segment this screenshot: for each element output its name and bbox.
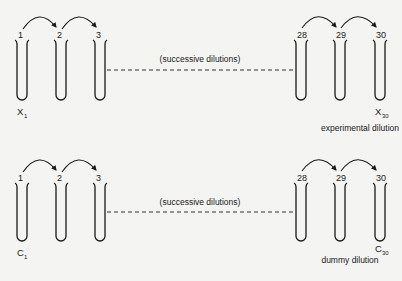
transfer-arrow-2-3 bbox=[62, 160, 96, 172]
last-sample-label: X 30 bbox=[375, 106, 389, 119]
svg-text:X: X bbox=[17, 106, 24, 117]
row-caption: dummy dilution bbox=[321, 255, 378, 265]
transfer-arrow-28-29 bbox=[302, 17, 336, 28]
tube-29: 29 bbox=[333, 173, 347, 241]
tube-30: 30 bbox=[373, 30, 387, 100]
tube-number: 29 bbox=[336, 173, 346, 183]
tube-29: 29 bbox=[333, 30, 347, 100]
first-sample-label: X 1 bbox=[17, 106, 28, 119]
transfer-arrow-1-2 bbox=[23, 160, 56, 172]
tube-number: 2 bbox=[57, 30, 62, 40]
tube-3: 3 bbox=[93, 30, 107, 100]
successive-dilutions-note: (successive dilutions) bbox=[160, 197, 241, 207]
tube-2: 2 bbox=[54, 173, 68, 241]
transfer-arrow-29-30 bbox=[341, 160, 376, 171]
svg-text:X: X bbox=[375, 106, 382, 117]
dummy-dilution-row: 1 2 3 28 29 30 (successive dilutions) bbox=[15, 160, 389, 265]
tube-2: 2 bbox=[54, 30, 68, 100]
svg-text:1: 1 bbox=[24, 254, 28, 260]
svg-text:C: C bbox=[375, 243, 382, 254]
tube-1: 1 bbox=[15, 30, 29, 100]
tube-number: 28 bbox=[297, 30, 307, 40]
tube-number: 29 bbox=[336, 30, 346, 40]
transfer-arrow-1-2 bbox=[23, 17, 56, 29]
tube-30: 30 bbox=[373, 173, 387, 241]
svg-text:1: 1 bbox=[24, 113, 28, 119]
tube-3: 3 bbox=[93, 173, 107, 241]
transfer-arrow-2-3 bbox=[62, 17, 96, 29]
svg-text:C: C bbox=[17, 247, 24, 258]
tube-number: 28 bbox=[297, 173, 307, 183]
tube-number: 3 bbox=[96, 30, 101, 40]
experimental-dilution-row: 1 2 3 28 29 30 (successive dilutions) bbox=[15, 17, 399, 133]
svg-text:30: 30 bbox=[382, 250, 389, 256]
tube-number: 2 bbox=[57, 173, 62, 183]
tube-number: 30 bbox=[376, 173, 386, 183]
row-caption: experimental dilution bbox=[321, 123, 399, 133]
tube-number: 1 bbox=[18, 30, 23, 40]
tube-1: 1 bbox=[15, 173, 29, 241]
tube-28: 28 bbox=[294, 30, 308, 100]
tube-number: 3 bbox=[96, 173, 101, 183]
transfer-arrow-29-30 bbox=[341, 17, 376, 28]
tube-number: 30 bbox=[376, 30, 386, 40]
transfer-arrow-28-29 bbox=[302, 160, 336, 171]
successive-dilutions-note: (successive dilutions) bbox=[160, 54, 241, 64]
tube-number: 1 bbox=[18, 173, 23, 183]
serial-dilution-diagram: 1 2 3 28 29 30 (successive dilutions) bbox=[0, 0, 402, 281]
first-sample-label: C 1 bbox=[17, 247, 28, 260]
tube-28: 28 bbox=[294, 173, 308, 241]
svg-text:30: 30 bbox=[382, 113, 389, 119]
